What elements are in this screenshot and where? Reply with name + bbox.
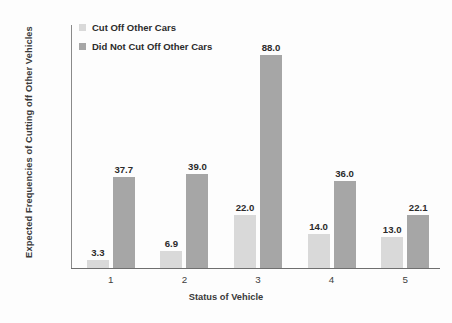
bar-did-not-cut-off: 22.1: [407, 215, 429, 268]
legend-swatch-icon-series-1: [79, 24, 86, 31]
legend-item-cut-off: Cut Off Other Cars: [79, 19, 212, 35]
legend-label-series-1: Cut Off Other Cars: [92, 22, 176, 33]
bar-value-label: 6.9: [151, 238, 191, 249]
bar-value-label: 22.0: [225, 202, 265, 213]
bar-did-not-cut-off: 39.0: [186, 174, 208, 268]
legend-swatch-icon-series-2: [79, 43, 86, 50]
legend: Cut Off Other Cars Did Not Cut Off Other…: [79, 19, 212, 57]
x-axis-tick-label: 4: [302, 274, 362, 285]
bar-cut-off: 6.9: [160, 251, 182, 268]
bar-group: 13.022.1: [381, 26, 429, 268]
bar-did-not-cut-off: 36.0: [334, 181, 356, 268]
bar-group: 6.939.0: [160, 26, 208, 268]
x-axis-tick-label: 3: [228, 274, 288, 285]
bar-value-label: 14.0: [299, 221, 339, 232]
bar-cut-off: 3.3: [87, 260, 109, 268]
bar-did-not-cut-off: 37.7: [113, 177, 135, 268]
bar-value-label: 39.0: [177, 161, 217, 172]
bar-value-label: 37.7: [104, 164, 144, 175]
bar-value-label: 88.0: [251, 42, 291, 53]
bar-cut-off: 14.0: [308, 234, 330, 268]
bar-cut-off: 13.0: [381, 237, 403, 268]
plot-area: 3.337.76.939.022.088.014.036.013.022.1: [72, 26, 440, 268]
bar-group: 22.088.0: [234, 26, 282, 268]
x-axis-line: [71, 268, 440, 269]
legend-item-did-not-cut-off: Did Not Cut Off Other Cars: [79, 38, 212, 54]
bar-group: 14.036.0: [308, 26, 356, 268]
x-axis-tick-label: 5: [375, 274, 435, 285]
legend-label-series-2: Did Not Cut Off Other Cars: [92, 41, 212, 52]
bar-value-label: 13.0: [372, 224, 412, 235]
bar-did-not-cut-off: 88.0: [260, 55, 282, 268]
bar-chart: Expected Frequencies of Cutting off Othe…: [0, 0, 452, 323]
x-axis-tick-label: 2: [154, 274, 214, 285]
bar-value-label: 36.0: [325, 168, 365, 179]
bar-cut-off: 22.0: [234, 215, 256, 268]
bar-group: 3.337.7: [87, 26, 135, 268]
x-axis-tick-label: 1: [81, 274, 141, 285]
bar-value-label: 22.1: [398, 202, 438, 213]
bar-value-label: 3.3: [78, 247, 118, 258]
x-axis-title: Status of Vehicle: [0, 292, 452, 302]
